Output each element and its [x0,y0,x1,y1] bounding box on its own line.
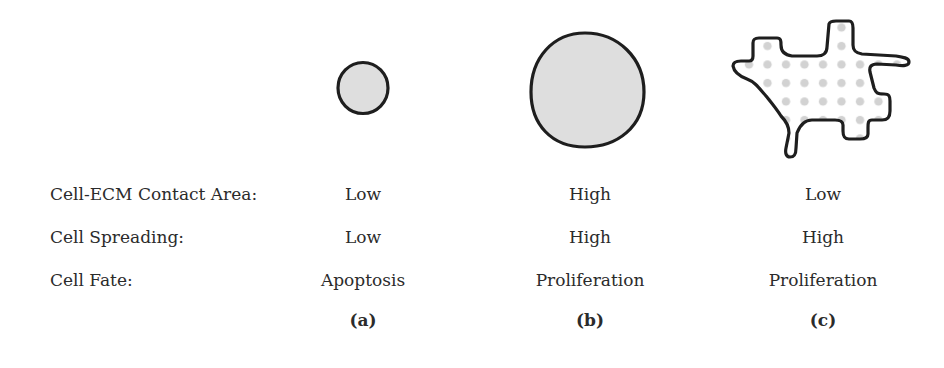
panel-c-fate: Proliferation [769,270,878,290]
spread-cell-icon [733,21,909,157]
panel-b-label: (b) [576,310,604,330]
cell-fate-figure: Cell-ECM Contact Area: Cell Spreading: C… [0,0,944,368]
panel-c-spreading: High [802,227,844,247]
panel-b-contact-area: High [569,184,611,204]
panel-a-spreading: Low [345,227,381,247]
row-label-cell-fate: Cell Fate: [50,270,133,290]
panel-b-spreading: High [569,227,611,247]
panel-a-label: (a) [349,310,376,330]
panel-a-contact-area: Low [345,184,381,204]
panel-a-fate: Apoptosis [321,270,405,290]
panel-c-contact-area: Low [805,184,841,204]
panel-c-label: (c) [810,310,836,330]
panel-b-fate: Proliferation [536,270,645,290]
small-cell-icon [338,63,388,114]
large-cell-icon [531,33,644,147]
row-label-cell-spreading: Cell Spreading: [50,227,184,247]
row-label-contact-area: Cell-ECM Contact Area: [50,184,257,204]
